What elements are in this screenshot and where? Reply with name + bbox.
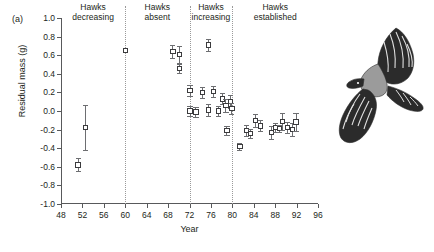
region-label: Hawks increasing (192, 2, 231, 23)
error-bar-cap-upper (258, 120, 263, 121)
x-tick-mark (168, 204, 169, 208)
error-bar-cap-lower (193, 117, 198, 118)
figure-panel-a: (a) Residual mass (g) 1.00.80.60.40.20.0… (0, 0, 434, 252)
error-bar-cap-upper (200, 87, 205, 88)
data-point-marker (224, 128, 229, 133)
error-bar-cap-lower (290, 136, 295, 137)
x-tick-mark (104, 204, 105, 208)
error-bar-cap-lower (177, 73, 182, 74)
error-bar-cap-upper (211, 86, 216, 87)
data-point-marker (187, 108, 192, 113)
error-bar-cap-upper (193, 107, 198, 108)
data-point-marker (237, 144, 242, 149)
error-bar-cap-lower (224, 135, 229, 136)
x-tick-label: 56 (99, 210, 108, 220)
error-bar-cap-upper (248, 129, 253, 130)
region-label: Hawks established (254, 2, 297, 23)
y-tick-label: -0.8 (40, 180, 55, 190)
y-tick-mark (57, 185, 61, 186)
y-tick-mark (57, 74, 61, 75)
error-bar-cap-lower (258, 131, 263, 132)
data-point-marker (206, 42, 211, 47)
x-tick-mark (147, 204, 148, 208)
error-bar-cap-upper (170, 45, 175, 46)
y-tick-label: 0.8 (43, 32, 55, 42)
x-tick-mark (82, 204, 83, 208)
error-bar-cap-lower (76, 171, 81, 172)
error-bar-cap-upper (253, 114, 258, 115)
y-tick-label: 0.0 (43, 106, 55, 116)
y-tick-label: 0.6 (43, 50, 55, 60)
y-tick-mark (57, 130, 61, 131)
error-bar-cap-lower (285, 133, 290, 134)
x-tick-label: 52 (78, 210, 87, 220)
x-tick-label: 64 (142, 210, 151, 220)
error-bar-cap-lower (293, 131, 298, 132)
error-bar-cap-upper (229, 103, 234, 104)
hawk-in-flight-icon (334, 22, 430, 150)
region-label: Hawks absent (145, 2, 171, 23)
error-bar-cap-upper (273, 123, 278, 124)
y-tick-mark (57, 18, 61, 19)
error-bar-cap-upper (177, 46, 182, 47)
error-bar-cap-lower (277, 132, 282, 133)
x-tick-label: 72 (185, 210, 194, 220)
error-bar-cap-upper (228, 95, 233, 96)
data-point-marker (206, 107, 211, 112)
error-bar-cap-upper (244, 125, 249, 126)
x-tick-label: 60 (121, 210, 130, 220)
data-point-marker (229, 106, 234, 111)
error-bar-cap-upper (220, 93, 225, 94)
error-bar-lower (85, 128, 86, 150)
data-point-marker (123, 48, 128, 53)
error-bar-cap-upper (206, 39, 211, 40)
x-tick-label: 88 (270, 210, 279, 220)
data-point-marker (293, 119, 298, 124)
error-bar-cap-upper (187, 106, 192, 107)
x-tick-label: 84 (249, 210, 258, 220)
error-bar-cap-upper (293, 113, 298, 114)
error-bar-cap-lower (223, 112, 228, 113)
data-point-marker (216, 108, 221, 113)
y-tick-label: 0.4 (43, 69, 55, 79)
error-bar-cap-lower (206, 116, 211, 117)
region-label: Hawks decreasing (72, 2, 114, 23)
error-bar-cap-lower (200, 98, 205, 99)
x-tick-label: 92 (292, 210, 301, 220)
error-bar-cap-lower (229, 114, 234, 115)
x-tick-mark (254, 204, 255, 208)
x-tick-mark (297, 204, 298, 208)
x-tick-mark (61, 204, 62, 208)
error-bar-cap-upper (224, 126, 229, 127)
x-tick-mark (275, 204, 276, 208)
x-tick-mark (125, 204, 126, 208)
y-tick-label: -1.0 (40, 199, 55, 209)
y-tick-mark (57, 167, 61, 168)
data-point-marker (170, 49, 175, 54)
x-tick-mark (211, 204, 212, 208)
y-tick-mark (57, 37, 61, 38)
error-bar-cap-lower (237, 150, 242, 151)
x-tick-label: 96 (313, 210, 322, 220)
error-bar-cap-lower (83, 150, 88, 151)
error-bar-cap-lower (206, 51, 211, 52)
region-divider (190, 6, 191, 204)
y-tick-mark (57, 55, 61, 56)
error-bar-cap-lower (170, 58, 175, 59)
error-bar-cap-lower (187, 116, 192, 117)
region-divider (125, 6, 126, 204)
x-tick-label: 68 (163, 210, 172, 220)
error-bar-cap-lower (211, 97, 216, 98)
y-tick-label: 1.0 (43, 13, 55, 23)
data-point-marker (200, 90, 205, 95)
plot-area: 1.00.80.60.40.20.0-0.2-0.4-0.6-0.8-1.0 4… (61, 18, 318, 204)
error-bar-cap-upper (187, 85, 192, 86)
error-bar-cap-lower (244, 136, 249, 137)
y-tick-mark (57, 111, 61, 112)
y-tick-label: -0.6 (40, 162, 55, 172)
y-tick-mark (57, 148, 61, 149)
data-point-marker (177, 66, 182, 71)
x-tick-mark (190, 204, 191, 208)
x-tick-label: 80 (228, 210, 237, 220)
x-tick-label: 48 (56, 210, 65, 220)
